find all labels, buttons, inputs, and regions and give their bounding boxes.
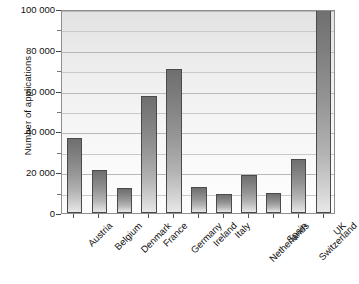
bar <box>141 96 156 213</box>
bar <box>117 188 132 214</box>
y-axis-tick-label: 0 <box>0 208 55 219</box>
x-axis-tick <box>123 214 124 218</box>
bar <box>166 69 181 213</box>
x-axis-tick-label: Austria <box>86 220 115 249</box>
bar <box>92 170 107 213</box>
bars-layer <box>62 11 334 213</box>
x-axis-tick <box>98 214 99 218</box>
x-axis-tick <box>173 214 174 218</box>
bar <box>67 138 82 213</box>
bar <box>241 175 256 213</box>
x-axis-tick <box>248 214 249 218</box>
plot-area <box>61 10 335 214</box>
x-axis-tick <box>273 214 274 218</box>
x-axis-tick <box>298 214 299 218</box>
x-axis-tick <box>323 214 324 218</box>
y-axis-tick-label: 100 000 <box>0 4 55 15</box>
x-axis-tick <box>198 214 199 218</box>
y-axis-tick-label: 80 000 <box>0 45 55 56</box>
bar <box>216 194 231 213</box>
y-axis-tick <box>56 214 61 215</box>
bar <box>291 159 306 213</box>
y-axis-tick-label: 20 000 <box>0 167 55 178</box>
bar <box>316 10 331 213</box>
y-axis-tick-label: 40 000 <box>0 126 55 137</box>
x-axis-tick <box>73 214 74 218</box>
bar <box>266 193 281 213</box>
y-axis-tick-label: 60 000 <box>0 86 55 97</box>
x-axis-tick <box>223 214 224 218</box>
bar <box>191 187 206 213</box>
x-axis-tick <box>148 214 149 218</box>
